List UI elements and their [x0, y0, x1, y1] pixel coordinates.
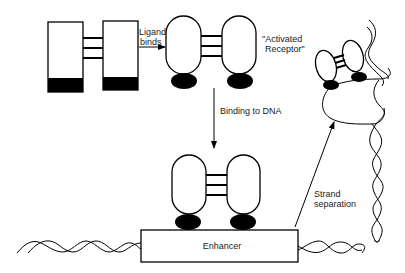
bound-foot-right — [230, 214, 256, 230]
strand-label: Strand — [314, 189, 341, 199]
bound-linker-bars — [206, 175, 227, 195]
activated-receptor: "Activated Receptor" — [166, 16, 305, 89]
receptor-label: Receptor" — [265, 44, 305, 54]
dna-helix-vertical-lower — [370, 124, 383, 242]
activated-subunit-left — [166, 16, 201, 74]
bound-subunit-left — [172, 155, 206, 214]
enhancer-label: Enhancer — [203, 241, 242, 251]
separation-label: separation — [314, 199, 356, 209]
inactive-linker-bars — [83, 38, 103, 58]
separated-subunit-left — [312, 48, 340, 84]
binding-to-dna-label: Binding to DNA — [220, 106, 282, 116]
binding-to-dna-arrow: Binding to DNA — [214, 88, 282, 148]
strand-separation-arrow: Strand separation — [295, 122, 356, 227]
dna-helix-vertical-upper — [365, 20, 388, 124]
activated-dna-binding-foot-left — [171, 73, 197, 89]
inactive-base-left — [48, 78, 83, 92]
binds-label: binds — [140, 37, 162, 47]
dna-helix-right — [298, 241, 365, 253]
receptor-diagram: Ligand binds "Activated Receptor" Bindin… — [0, 0, 405, 273]
activated-subunit-right — [222, 16, 256, 74]
inactive-base-right — [103, 77, 138, 90]
open-dna-loop — [323, 86, 385, 124]
bound-foot-left — [175, 214, 201, 230]
ligand-binds-arrow: Ligand binds — [139, 27, 166, 47]
enhancer: Enhancer — [141, 230, 298, 262]
activated-label: "Activated — [262, 34, 302, 44]
inactive-receptor — [48, 21, 138, 92]
activated-dna-binding-foot-right — [227, 73, 253, 89]
bound-subunit-right — [227, 155, 260, 214]
separated-foot-right — [351, 72, 367, 82]
separated-foot-left — [323, 80, 339, 90]
activated-linker-bars — [201, 36, 222, 56]
dna-bound-receptor — [172, 155, 260, 230]
dna-helix-left — [17, 241, 141, 253]
ligand-label: Ligand — [139, 27, 166, 37]
